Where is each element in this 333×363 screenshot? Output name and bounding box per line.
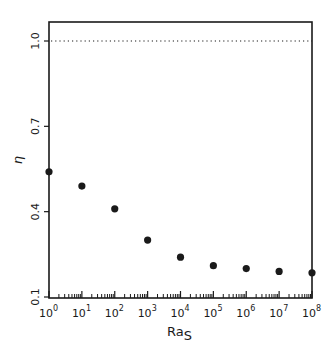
data-point [111,205,118,212]
x-tick-label: 107 [269,304,288,320]
data-point [78,182,85,189]
x-tick-label: 105 [203,304,222,320]
y-axis-label: η [10,156,25,164]
data-point [45,168,52,175]
data-point [243,265,250,272]
x-tick-label: 102 [105,304,124,320]
data-point [308,269,315,276]
data-point [276,268,283,275]
y-tick-label: 1.0 [29,32,42,50]
y-tick-label: 0.1 [29,288,42,306]
chart: 100101102103104105106107108 0.10.40.71.0… [0,0,333,363]
x-axis-label: RaS [167,324,192,343]
data-points [45,168,315,276]
data-point [144,237,151,244]
y-axis-ticks: 0.10.40.71.0 [29,32,49,306]
x-tick-label: 108 [302,304,321,320]
data-point [210,262,217,269]
x-tick-label: 106 [236,304,255,320]
y-tick-label: 0.4 [29,203,42,221]
y-tick-label: 0.7 [29,118,42,136]
axis-labels: ηRaS [10,156,192,343]
x-tick-label: 104 [171,304,190,320]
x-axis-ticks: 100101102103104105106107108 [39,291,321,320]
x-tick-label: 103 [138,304,157,320]
x-tick-label: 101 [72,304,91,320]
data-point [177,254,184,261]
